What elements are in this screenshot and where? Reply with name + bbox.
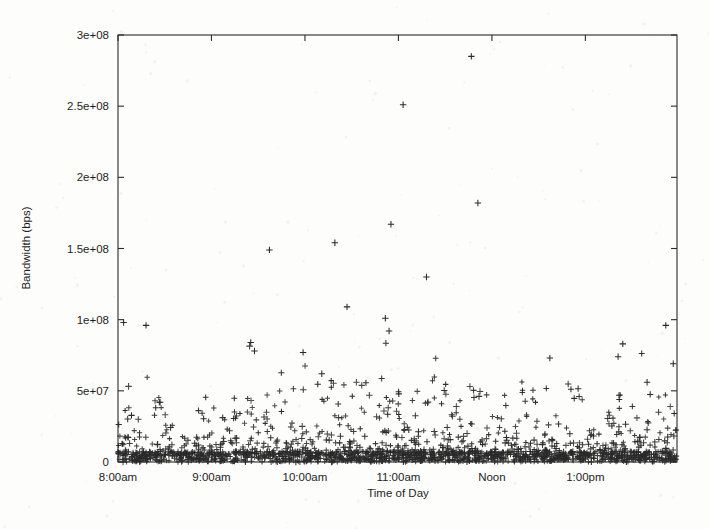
scan-speck [368,80,371,83]
scan-speck [287,522,289,524]
scan-speck [647,262,649,264]
scan-speck [572,108,575,111]
scan-speck [489,53,491,55]
scan-speck [682,504,683,505]
scan-speck [410,330,412,332]
scan-speck [358,235,360,237]
scan-speck [303,260,305,262]
scan-speck [637,175,638,176]
scan-speck [74,277,76,279]
scan-speck [76,345,78,347]
scan-speck [119,192,122,195]
scan-speck [585,358,587,360]
scan-speck [529,515,532,518]
scan-speck [411,323,414,326]
scan-speck [684,338,686,340]
scan-speck [601,351,602,352]
scan-speck [460,184,461,185]
scan-speck [307,229,309,231]
scan-speck [3,525,6,528]
scan-speck [472,57,475,60]
scan-speck [526,275,528,277]
scan-speck [280,470,282,472]
scan-speck [149,72,153,76]
scan-speck [372,99,374,101]
scan-speck [498,41,501,44]
scan-speck [580,169,584,173]
scan-speck [642,22,646,26]
scan-speck [278,147,279,148]
scan-speck [655,232,658,235]
scan-speck [105,514,109,518]
y-axis-title: Bandwidth (bps) [20,206,32,289]
x-axis-title: Time of Day [367,487,429,499]
scan-speck [395,235,397,237]
scan-speck [210,386,212,388]
scan-speck [598,200,599,201]
scan-speck [561,66,564,69]
scan-speck [596,143,599,146]
scan-speck [514,482,517,485]
scan-speck [144,44,147,47]
y-tick-label: 0 [103,456,109,468]
scatter-plot-figure: 05e+071e+081.5e+082e+082.5e+083e+08 8:00… [0,0,709,529]
scan-speck [40,434,43,437]
scan-speck [484,247,487,250]
scan-speck [374,92,377,95]
x-tick-label: 10:00am [283,471,328,483]
scan-speck [469,241,472,244]
scan-speck [146,219,147,220]
scan-speck [216,322,218,324]
scan-speck [493,48,495,50]
x-tick-label: 11:00am [376,471,420,483]
scan-speck [428,123,429,124]
scan-speck [450,386,452,388]
scan-speck [659,494,662,497]
scan-speck [317,500,320,503]
scan-speck [54,415,56,417]
scan-speck [680,299,683,302]
scan-speck [678,365,679,366]
scan-speck [84,84,86,86]
scan-speck [412,277,414,279]
scan-speck [338,366,340,368]
scan-speck [659,225,660,226]
scan-speck [702,259,704,261]
scan-speck [456,244,458,246]
scan-speck [288,352,289,353]
scan-speck [153,60,157,64]
scan-speck [581,419,583,421]
scan-speck [426,19,427,20]
scan-speck [497,357,500,360]
scan-speck [406,105,409,108]
scan-speck [0,297,3,300]
scan-speck [463,81,465,83]
scan-speck [112,10,114,12]
scan-speck [354,341,355,342]
x-tick-label: Noon [478,471,506,483]
y-tick-label: 1e+08 [77,314,109,326]
scan-speck [630,404,631,405]
x-tick-label: 8:00am [99,471,137,483]
scan-speck [109,316,112,319]
scan-speck [661,332,664,335]
scan-speck [448,341,451,344]
y-tick-label: 2.5e+08 [67,100,109,112]
scan-speck [76,283,80,287]
scan-speck [672,496,674,498]
scan-speck [120,31,123,34]
scan-speck [544,65,545,66]
scan-speck [242,264,245,267]
y-tick-label: 1.5e+08 [67,243,109,255]
scan-speck [624,379,627,382]
scan-speck [141,370,144,373]
scan-speck [366,376,369,379]
scan-speck [224,221,227,224]
scan-speck [397,367,400,370]
scan-speck [608,93,610,95]
scan-speck [62,197,65,200]
scan-speck [469,289,470,290]
plot-svg: 05e+071e+081.5e+082e+082.5e+083e+08 8:00… [0,0,709,529]
scan-speck [112,500,115,503]
scan-speck [304,498,307,501]
